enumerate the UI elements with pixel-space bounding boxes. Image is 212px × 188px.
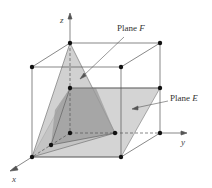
- plane-e-label: Plane E: [170, 93, 198, 103]
- z-axis-arrow-icon: [68, 13, 72, 19]
- plane-f-label: Plane F: [117, 23, 145, 33]
- y-axis-label: y: [180, 137, 185, 147]
- x-axis-label: x: [11, 174, 16, 184]
- z-axis-label: z: [59, 15, 64, 25]
- y-axis-arrow-icon: [181, 131, 187, 135]
- cube-planes-diagram: z y x Plane F Plane E: [0, 0, 212, 188]
